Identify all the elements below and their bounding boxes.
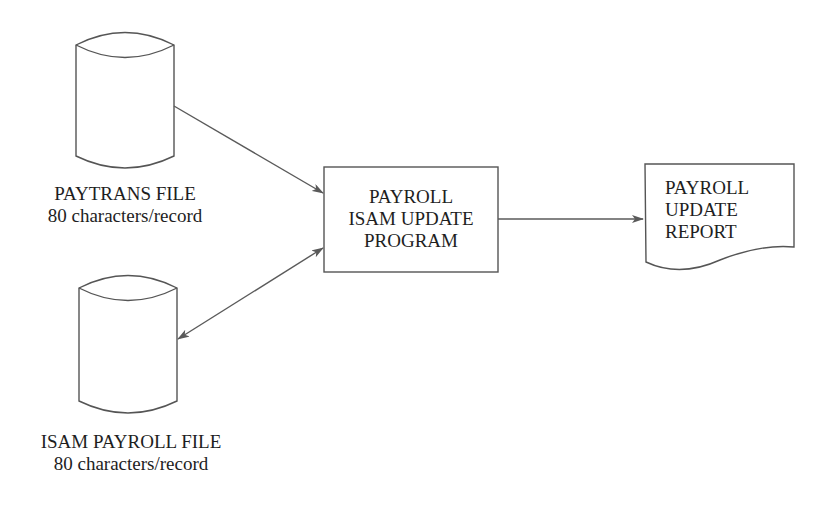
paytrans-file-label: PAYTRANS FILE 80 characters/record	[20, 183, 230, 227]
paytrans-file-title: PAYTRANS FILE	[20, 183, 230, 205]
program-line-1: PAYROLL	[324, 186, 498, 208]
paytrans-file-cylinder-icon	[76, 33, 174, 169]
isam-payroll-file-cylinder-icon	[79, 276, 177, 414]
paytrans-file-record-size: 80 characters/record	[20, 205, 230, 227]
arrow-isam-program-bidirectional	[178, 248, 323, 339]
report-line-1: PAYROLL	[665, 177, 790, 199]
isam-payroll-file-label: ISAM PAYROLL FILE 80 characters/record	[20, 431, 242, 475]
isam-payroll-file-record-size: 80 characters/record	[20, 453, 242, 475]
report-label: PAYROLL UPDATE REPORT	[665, 177, 790, 243]
isam-payroll-file-title: ISAM PAYROLL FILE	[20, 431, 242, 453]
report-line-2: UPDATE	[665, 199, 790, 221]
program-label: PAYROLL ISAM UPDATE PROGRAM	[324, 186, 498, 252]
report-line-3: REPORT	[665, 221, 790, 243]
program-line-2: ISAM UPDATE	[324, 208, 498, 230]
program-line-3: PROGRAM	[324, 230, 498, 252]
arrow-paytrans-to-program	[174, 106, 323, 193]
